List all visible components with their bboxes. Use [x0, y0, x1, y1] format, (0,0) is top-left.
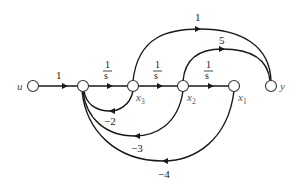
- node-label-x3: x3: [135, 91, 145, 106]
- gain-label-x2-x1: 1 s: [204, 59, 213, 81]
- node-label-x1: x1: [237, 91, 247, 106]
- gain-label-x3-n1: −2: [104, 115, 116, 127]
- arrow-icon: [134, 133, 140, 139]
- arrow-icon: [109, 108, 115, 114]
- arrow-icon: [195, 26, 201, 32]
- arrow-icon: [107, 83, 113, 89]
- edge-x2-to-n1: [83, 91, 183, 136]
- gain-label-x2-y: 5: [219, 34, 225, 46]
- arrow-icon: [157, 83, 163, 89]
- signal-flow-graph: u x3 x2 x1 y 1 1 s 1 s 1 s 1 5 −2 −3 −4: [0, 0, 302, 187]
- node-label-x2: x2: [186, 91, 196, 106]
- svg-text:s: s: [104, 70, 108, 81]
- svg-text:1: 1: [155, 59, 160, 70]
- node-u: [28, 81, 39, 92]
- arrow-icon: [62, 83, 68, 89]
- edge-x2-to-y: [183, 49, 270, 81]
- node-x1: [229, 81, 240, 92]
- node-label-u: u: [17, 80, 23, 92]
- svg-text:1: 1: [105, 59, 110, 70]
- svg-text:s: s: [205, 70, 209, 81]
- node-x3: [128, 81, 139, 92]
- edge-x3-to-n1: [84, 91, 133, 111]
- node-y: [266, 81, 277, 92]
- gain-label-x3-x2: 1 s: [153, 59, 162, 81]
- arrow-icon: [219, 46, 225, 52]
- svg-text:s: s: [154, 70, 158, 81]
- gain-label-x3-y: 1: [195, 11, 201, 23]
- arrow-icon: [162, 158, 168, 164]
- arrow-icon: [208, 83, 214, 89]
- gain-label-u-n1: 1: [56, 69, 62, 81]
- node-x2: [178, 81, 189, 92]
- node-n1: [78, 81, 89, 92]
- gain-label-n1-x3: 1 s: [103, 59, 112, 81]
- node-label-y: y: [279, 80, 285, 92]
- svg-text:1: 1: [206, 59, 211, 70]
- gain-label-x2-n1: −3: [131, 142, 143, 154]
- gain-label-x1-n1: −4: [158, 168, 170, 180]
